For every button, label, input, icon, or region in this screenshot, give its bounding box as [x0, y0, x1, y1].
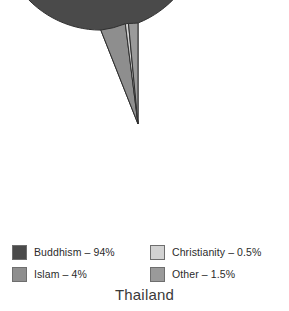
- legend-label-christianity: Christianity – 0.5%: [172, 246, 261, 258]
- pie-slice-group: [0, 0, 202, 124]
- pie-chart-figure: Buddhism – 94% Christianity – 0.5% Islam…: [0, 0, 289, 311]
- legend-label-buddhism: Buddhism – 94%: [34, 246, 115, 258]
- legend-item-islam[interactable]: Islam – 4%: [12, 263, 150, 285]
- chart-legend: Buddhism – 94% Christianity – 0.5% Islam…: [12, 241, 280, 285]
- legend-item-christianity[interactable]: Christianity – 0.5%: [150, 241, 280, 263]
- legend-swatch-christianity: [150, 245, 165, 260]
- legend-swatch-other: [150, 267, 165, 282]
- legend-item-buddhism[interactable]: Buddhism – 94%: [12, 241, 150, 263]
- pie-plot-area: [0, 0, 289, 236]
- legend-item-other[interactable]: Other – 1.5%: [150, 263, 280, 285]
- legend-swatch-islam: [12, 267, 27, 282]
- legend-label-other: Other – 1.5%: [172, 268, 235, 280]
- pie-svg: [0, 0, 289, 236]
- pie-slice-buddhism[interactable]: [0, 0, 202, 124]
- legend-swatch-buddhism: [12, 245, 27, 260]
- chart-title: Thailand: [0, 286, 289, 303]
- legend-label-islam: Islam – 4%: [34, 268, 87, 280]
